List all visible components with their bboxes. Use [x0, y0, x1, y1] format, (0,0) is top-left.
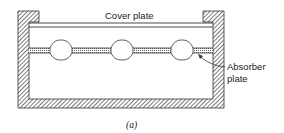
- fluid-tubes: [50, 40, 193, 60]
- cover-plate-label: Cover plate: [105, 10, 154, 21]
- tube-1: [50, 40, 72, 60]
- tube-3: [171, 40, 193, 60]
- absorber-label-line2: plate: [227, 73, 248, 84]
- absorber-label-line1: Absorber: [227, 61, 266, 72]
- figure-caption: (a): [126, 120, 137, 131]
- solar-collector-diagram: Cover plate Absorber plate (a): [0, 0, 284, 133]
- tube-2: [111, 40, 133, 60]
- cover-plate: [29, 23, 213, 27]
